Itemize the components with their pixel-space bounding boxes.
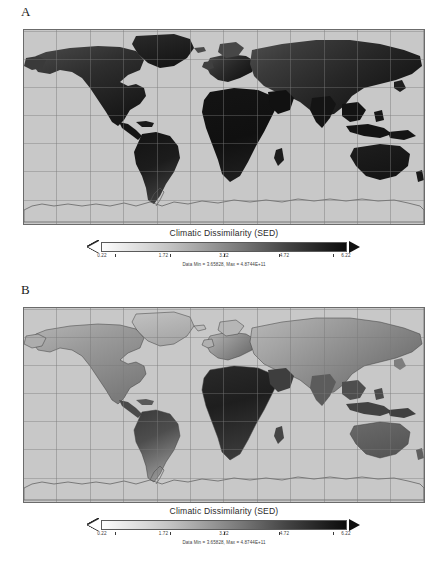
panel-a-colorbar-title: Climatic Dissimilarity (SED) xyxy=(0,228,448,238)
landmass-africa xyxy=(202,88,276,182)
colorbar-tick-label: 4.72 xyxy=(280,531,289,536)
landmass-south-america xyxy=(134,132,180,204)
panel-a-map xyxy=(23,29,425,225)
landmass-south-america xyxy=(134,410,180,482)
landmass-indonesia xyxy=(346,402,392,416)
landmass-japan xyxy=(394,358,406,370)
panel-b-colorbar-gradient xyxy=(101,520,347,530)
landmass-caribbean xyxy=(136,121,154,127)
colorbar-tick-label: 6.22 xyxy=(341,253,350,258)
panel-a-colorbar: Climatic Dissimilarity (SED) 0.22 1.72 xyxy=(0,228,448,278)
panel-b-data-range-note: Data Min = 3.65828, Max = 4.8744E+11 xyxy=(0,540,448,545)
colorbar-tick-label: 3.22 xyxy=(219,253,228,258)
colorbar-tick-label: 6.22 xyxy=(341,531,350,536)
panel-a-map-canvas xyxy=(24,30,424,224)
landmass-madagascar xyxy=(274,148,284,166)
panel-b: B xyxy=(0,278,448,562)
panel-b-map xyxy=(23,307,425,503)
panel-a-label: A xyxy=(21,4,31,20)
landmass-central-america xyxy=(119,122,142,140)
landmass-australia xyxy=(350,144,410,180)
landmass-madagascar xyxy=(274,426,284,444)
panel-b-colorbar-row xyxy=(88,519,360,531)
landmass-philippines xyxy=(374,110,384,122)
panel-b-label: B xyxy=(21,282,30,298)
panel-b-map-canvas xyxy=(24,308,424,502)
panel-a-world-svg xyxy=(24,30,424,224)
landmass-australia xyxy=(350,422,410,458)
panel-a-colorbar-row xyxy=(88,241,360,253)
landmass-india xyxy=(310,96,336,128)
landmass-philippines xyxy=(374,388,384,400)
landmass-british-isles xyxy=(202,339,214,348)
landmass-new-zealand xyxy=(416,170,424,182)
panel-a: A xyxy=(0,0,448,281)
colorbar-tick-label: 0.22 xyxy=(97,253,106,258)
colorbar-tick-label: 4.72 xyxy=(280,253,289,258)
colorbar-tick-label: 3.22 xyxy=(219,531,228,536)
colorbar-under-arrow-icon xyxy=(88,241,99,253)
colorbar-over-arrow-icon xyxy=(349,241,360,253)
colorbar-tick-label: 1.72 xyxy=(159,253,168,258)
panel-b-colorbar-title: Climatic Dissimilarity (SED) xyxy=(0,506,448,516)
colorbar-under-arrow-icon xyxy=(88,519,99,531)
landmass-central-america xyxy=(119,400,142,418)
landmass-new-zealand xyxy=(416,448,424,460)
panel-a-colorbar-gradient xyxy=(101,242,347,252)
landmass-new-guinea xyxy=(388,130,416,140)
colorbar-over-arrow-icon xyxy=(349,519,360,531)
landmass-southeast-asia xyxy=(342,380,366,400)
landmass-southeast-asia xyxy=(342,102,366,122)
landmass-north-america xyxy=(32,46,146,126)
landmass-antarctica-outline xyxy=(24,477,424,500)
landmass-north-america xyxy=(32,324,146,404)
panel-b-world-svg xyxy=(24,308,424,502)
landmass-antarctica-outline xyxy=(24,199,424,222)
landmass-iceland xyxy=(194,325,206,331)
landmass-india xyxy=(310,374,336,406)
landmass-caribbean xyxy=(136,399,154,405)
colorbar-tick-label: 1.72 xyxy=(159,531,168,536)
landmass-japan xyxy=(394,80,406,92)
landmass-new-guinea xyxy=(388,408,416,418)
landmass-africa xyxy=(202,366,276,460)
landmass-indonesia xyxy=(346,124,392,138)
colorbar-tick-label: 0.22 xyxy=(97,531,106,536)
panel-a-data-range-note: Data Min = 3.65828, Max = 4.8744E+11 xyxy=(0,262,448,267)
landmass-iceland xyxy=(194,47,206,53)
figure-root: A xyxy=(0,0,448,562)
panel-b-colorbar: Climatic Dissimilarity (SED) 0.22 1.72 xyxy=(0,506,448,556)
